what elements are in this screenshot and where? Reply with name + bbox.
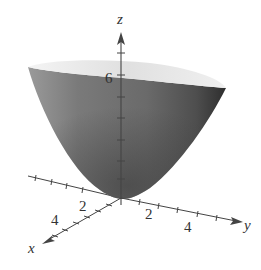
x-tick-label-4: 4 [51, 212, 59, 228]
y-axis-arrow-icon [230, 217, 243, 225]
x-axis-label: x [27, 240, 35, 256]
y-axis [121, 198, 243, 225]
y-tick-label-4: 4 [184, 219, 192, 235]
y-tick-label-2: 2 [145, 206, 153, 222]
z-tick-label-6: 6 [105, 70, 113, 86]
y-axis-label: y [242, 217, 251, 233]
x-tick-label-2: 2 [79, 198, 87, 214]
plot-canvas: z 6 y 2 4 x 2 4 [0, 0, 261, 270]
x-axis-arrow-icon [42, 235, 55, 244]
paraboloid-figure: z 6 y 2 4 x 2 4 [0, 0, 261, 270]
z-axis [117, 32, 125, 205]
z-axis-label: z [116, 11, 123, 27]
surface-shading [28, 67, 226, 199]
